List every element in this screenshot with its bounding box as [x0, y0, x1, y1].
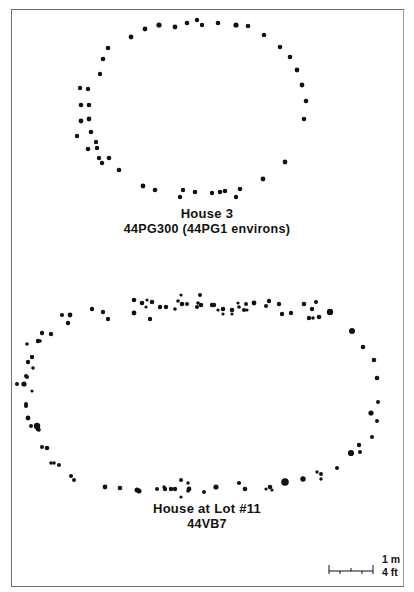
house3-postmold [218, 190, 223, 195]
lot11-postmold [49, 461, 53, 465]
lot11-postmold [103, 485, 108, 490]
house3-postmold [216, 21, 221, 26]
house3-postmold [98, 72, 102, 76]
house3-postmold [94, 140, 98, 144]
lot11-postmold [307, 316, 311, 320]
house3-postmold [106, 46, 111, 51]
lot11-postmold [21, 381, 26, 386]
lot11-postmold [24, 402, 28, 406]
lot11-postmold [221, 312, 224, 315]
lot11-site-number: 44VB7 [0, 517, 414, 531]
lot11-postmold [45, 446, 50, 451]
lot11-outline [15, 293, 380, 499]
house3-postmold [181, 188, 185, 192]
lot11-postmold [370, 435, 374, 439]
house3-postmold [89, 130, 94, 135]
house3-postmold [153, 188, 158, 193]
lot11-postmold [267, 299, 271, 303]
lot11-postmold [155, 487, 159, 491]
lot11-postmold [252, 301, 257, 306]
lot11-postmold [173, 487, 177, 491]
house3-site-number: 44PG300 (44PG1 environs) [0, 222, 414, 236]
lot11-postmold [132, 298, 137, 303]
lot11-postmold [376, 400, 380, 404]
lot11-postmold [186, 489, 190, 493]
lot11-postmold [202, 490, 206, 494]
house3-postmold [87, 103, 92, 108]
lot11-postmold [358, 450, 362, 454]
lot11-postmold [245, 308, 248, 311]
lot11-postmold [277, 302, 281, 306]
lot11-postmold [244, 302, 248, 306]
house3-postmold [210, 191, 214, 195]
lot11-postmold [60, 313, 64, 317]
lot11-postmold [68, 313, 73, 318]
lot11-postmold [66, 321, 70, 325]
house3-postmold [246, 24, 251, 29]
lot11-postmold [144, 305, 147, 308]
lot11-postmold [158, 305, 162, 309]
house3-postmold [193, 190, 198, 195]
lot11-postmold [315, 470, 318, 473]
scale-label-imperial: 4 ft [382, 566, 398, 578]
lot11-postmold [176, 299, 180, 303]
lot11-postmold [368, 410, 373, 415]
lot11-postmold [237, 305, 241, 309]
lot11-postmold [57, 463, 61, 467]
lot11-postmold [372, 358, 377, 363]
lot11-postmold [31, 366, 35, 370]
lot11-postmold [237, 481, 241, 485]
lot11-postmold [230, 312, 233, 315]
lot11-postmold [132, 311, 137, 316]
lot11-postmold [30, 355, 34, 359]
lot11-postmold [179, 478, 183, 482]
house3-postmold [283, 160, 288, 165]
house3-postmold [234, 195, 238, 199]
house3-postmold [278, 45, 283, 50]
lot11-postmold [357, 443, 361, 447]
lot11-postmold [212, 303, 216, 307]
lot11-postmold [106, 317, 110, 321]
lot11-postmold [26, 416, 31, 421]
lot11-postmold [213, 484, 218, 489]
house3-postmold [100, 161, 104, 165]
house3-outline [75, 18, 309, 199]
scale-label-metric: 1 m [382, 553, 400, 565]
lot11-postmold [264, 304, 268, 308]
lot11-postmold [375, 376, 380, 381]
lot11-postmold [310, 307, 314, 311]
lot11-postmold [179, 293, 182, 296]
lot11-postmold [49, 332, 53, 336]
lot11-postmold [264, 487, 267, 490]
lot11-postmold [180, 302, 185, 307]
lot11-postmold [164, 305, 168, 309]
lot11-postmold [242, 308, 246, 312]
lot11-postmold [40, 331, 44, 335]
lot11-postmold [319, 472, 323, 476]
house3-postmold [79, 103, 84, 108]
lot11-postmold [221, 307, 226, 312]
house3-postmold [300, 83, 305, 88]
lot11-postmold [230, 308, 235, 313]
house3-postmold [200, 23, 204, 27]
lot11-postmold [311, 316, 315, 320]
lot11-postmold [314, 300, 318, 304]
lot11-postmold [186, 481, 189, 484]
lot11-postmold [40, 445, 44, 449]
lot11-postmold [300, 476, 305, 481]
house3-postmold [223, 189, 228, 194]
lot11-postmold [243, 487, 248, 492]
lot11-postmold [348, 450, 354, 456]
lot11-postmold [335, 466, 339, 470]
lot11-postmold [195, 305, 199, 309]
house3-postmold [87, 117, 92, 122]
lot11-postmold [15, 382, 19, 386]
house3-postmold [262, 33, 267, 38]
lot11-postmold [34, 423, 40, 429]
lot11-postmold [349, 328, 355, 334]
lot11-postmold [24, 374, 28, 378]
lot11-postmold [198, 293, 202, 297]
lot11-postmold [281, 478, 289, 486]
house3-postmold [233, 22, 238, 27]
lot11-postmold [162, 485, 165, 488]
